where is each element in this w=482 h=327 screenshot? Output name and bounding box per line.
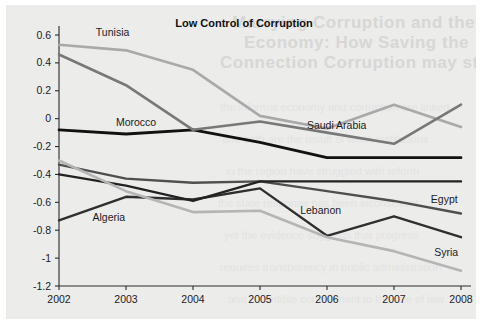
series-labels: TunisiaMoroccoSaudi ArabiaEgyptAlgeriaLe…	[93, 26, 459, 258]
x-tick-label: 2002	[47, 293, 71, 305]
x-tick-label: 2005	[248, 293, 272, 305]
series-label-tunisia: Tunisia	[96, 26, 130, 38]
y-tick-label: -0.2	[33, 140, 51, 152]
x-tick-label: 2003	[114, 293, 138, 305]
y-tick-label: 0.4	[36, 56, 51, 68]
y-tick-label: -1.2	[33, 280, 51, 292]
series-label-algeria: Algeria	[93, 211, 126, 223]
series-lines	[59, 45, 461, 271]
series-label-lebanon: Lebanon	[300, 204, 341, 216]
x-tick-label: 2006	[315, 293, 339, 305]
y-tick-label: 0.2	[36, 84, 51, 96]
y-axis: 0.60.40.20-0.2-0.4-0.6-0.8-1-1.2	[33, 26, 59, 292]
series-line-saudi-arabia	[59, 55, 461, 144]
y-tick-label: 0	[45, 112, 51, 124]
chart-title-group: Low Control of Corruption	[175, 17, 313, 29]
y-tick-label: -0.6	[33, 196, 51, 208]
x-tick-label: 2004	[181, 293, 205, 305]
y-tick-label: -1	[42, 252, 51, 264]
x-tick-label: 2007	[382, 293, 406, 305]
series-line-morocco	[59, 130, 461, 158]
series-label-saudi-arabia: Saudi Arabia	[307, 119, 367, 131]
y-tick-label: -0.8	[33, 224, 51, 236]
line-chart: Low Control of Corruption 0.60.40.20-0.2…	[6, 5, 476, 319]
y-tick-label: 0.6	[36, 29, 51, 41]
scanned-page: Marrying Corruption and the Informal Eco…	[6, 5, 476, 319]
x-axis: 2002200320042005200620072008	[47, 286, 473, 305]
screenshot-root: Marrying Corruption and the Informal Eco…	[0, 0, 482, 327]
x-tick-label: 2008	[449, 293, 473, 305]
chart-title: Low Control of Corruption	[175, 17, 313, 29]
series-label-morocco: Morocco	[116, 116, 156, 128]
series-label-egypt: Egypt	[431, 193, 458, 205]
series-label-syria: Syria	[434, 246, 458, 258]
y-tick-label: -0.4	[33, 168, 51, 180]
